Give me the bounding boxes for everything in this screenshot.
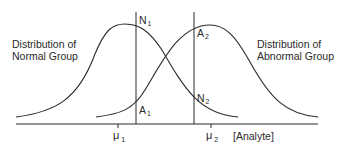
point-subscript: 1: [148, 20, 152, 27]
normal-group-label-line2: Normal Group: [12, 50, 78, 62]
point-letter: N: [139, 14, 147, 26]
x-axis-label: [Analyte]: [233, 130, 274, 142]
point-n2-label: N2: [197, 93, 210, 107]
mu-subscript: 2: [214, 136, 218, 143]
distribution-diagram: [0, 0, 339, 148]
point-subscript: 2: [206, 98, 210, 105]
point-letter: A: [139, 104, 146, 116]
mu2-label: μ2: [206, 129, 218, 146]
point-n1-label: N1: [139, 15, 152, 29]
point-subscript: 1: [147, 110, 151, 117]
point-a1-label: A1: [139, 105, 151, 119]
normal-group-label: Distribution of Normal Group: [12, 38, 78, 62]
mu-subscript: 1: [121, 136, 125, 143]
point-a2-label: A2: [197, 28, 209, 42]
abnormal-group-label: Distribution of Abnormal Group: [257, 38, 334, 62]
mu1-label: μ1: [113, 129, 125, 146]
mu-symbol: μ: [113, 129, 119, 141]
abnormal-group-label-line2: Abnormal Group: [257, 50, 334, 62]
normal-group-label-line1: Distribution of: [12, 38, 78, 50]
point-letter: N: [197, 92, 205, 104]
point-subscript: 2: [205, 33, 209, 40]
point-letter: A: [197, 27, 204, 39]
mu-symbol: μ: [206, 129, 212, 141]
abnormal-group-label-line1: Distribution of: [257, 38, 334, 50]
